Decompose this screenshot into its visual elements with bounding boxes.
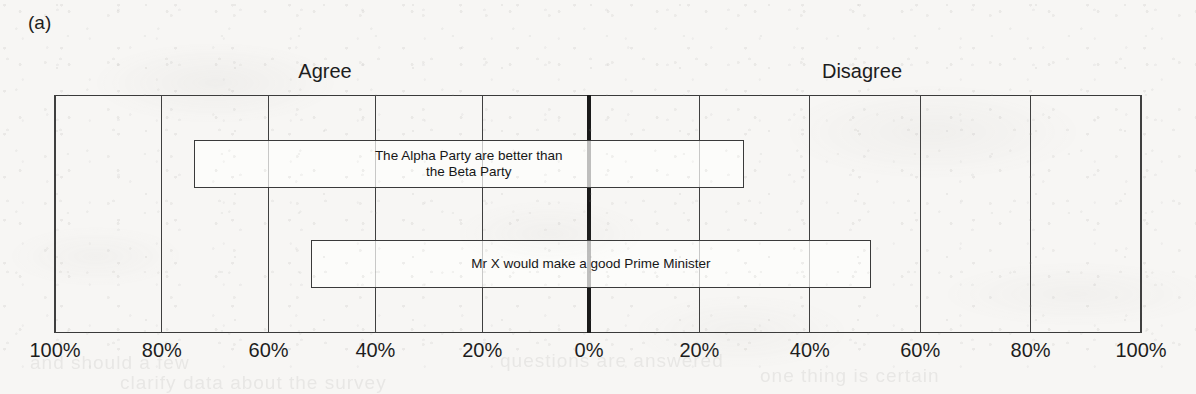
plot-area-frame bbox=[55, 95, 1141, 333]
bar-2: Mr X would make a good Prime Minister bbox=[311, 240, 870, 288]
x-tick-label: 40% bbox=[355, 339, 395, 362]
axis-header-disagree: Disagree bbox=[822, 60, 902, 83]
gridline bbox=[54, 95, 55, 333]
gridline bbox=[268, 95, 269, 333]
bar-label: The Alpha Party are better than the Beta… bbox=[375, 148, 563, 180]
gridline bbox=[1140, 95, 1141, 333]
center-zero-line bbox=[587, 95, 591, 333]
x-tick-label: 40% bbox=[790, 339, 830, 362]
gridline bbox=[161, 95, 162, 333]
bar-label: Mr X would make a good Prime Minister bbox=[471, 256, 710, 272]
x-tick-label: 100% bbox=[1115, 339, 1166, 362]
x-tick-label: 60% bbox=[249, 339, 289, 362]
x-tick-label: 0% bbox=[575, 339, 604, 362]
gridline bbox=[375, 95, 376, 333]
x-tick-label: 20% bbox=[679, 339, 719, 362]
gridline bbox=[920, 95, 921, 333]
bar-1: The Alpha Party are better than the Beta… bbox=[194, 140, 744, 188]
gridline bbox=[809, 95, 810, 333]
x-tick-label: 20% bbox=[462, 339, 502, 362]
axis-header-agree: Agree bbox=[298, 60, 351, 83]
x-tick-label: 80% bbox=[1011, 339, 1051, 362]
x-tick-label: 100% bbox=[29, 339, 80, 362]
gridline bbox=[699, 95, 700, 333]
x-tick-label: 80% bbox=[142, 339, 182, 362]
x-tick-label: 60% bbox=[900, 339, 940, 362]
gridline bbox=[482, 95, 483, 333]
gridline bbox=[1030, 95, 1031, 333]
